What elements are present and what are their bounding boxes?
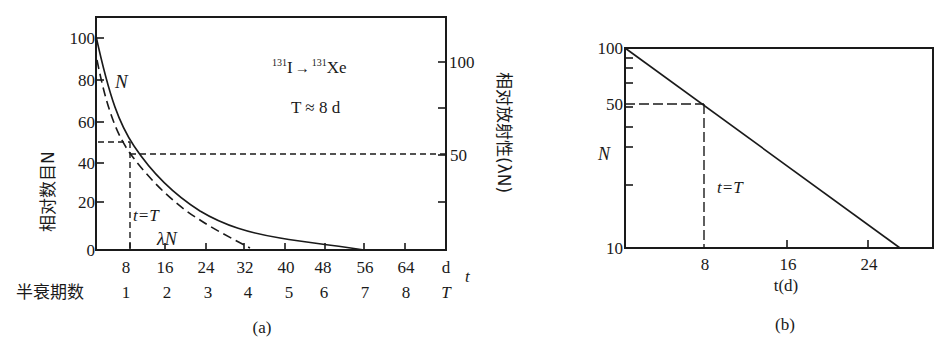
svg-text:40: 40: [78, 154, 95, 173]
svg-text:3: 3: [204, 283, 213, 302]
chart-a-reference-lines: [98, 142, 446, 250]
reaction-annotation: 131I→131Xe: [272, 57, 347, 77]
svg-text:d: d: [442, 258, 451, 277]
curve-N-label: N: [114, 71, 129, 92]
svg-text:56: 56: [357, 258, 374, 277]
chart-b-plot-frame: [625, 48, 933, 248]
chart-a-x-axis-var: t: [465, 267, 471, 286]
chart-b-x-axis-title: t(d): [774, 276, 799, 295]
chart-b-x-tick-labels: 8 16 24: [701, 255, 878, 274]
svg-text:1: 1: [122, 283, 131, 302]
svg-text:10: 10: [606, 239, 623, 258]
chart-b-y-ticks: [625, 58, 633, 185]
svg-text:24: 24: [861, 255, 879, 274]
chart-b-x-ticks: [787, 240, 868, 248]
chart-a-left-tick-labels: 100 80 60 40 20 0: [70, 29, 96, 260]
svg-text:7: 7: [361, 283, 370, 302]
halflife-row-label: 半衰期数: [16, 282, 84, 302]
chart-a-right-axis-title: 相对放射性(λN): [494, 72, 514, 193]
panel-a-label: (a): [253, 318, 272, 337]
svg-text:16: 16: [157, 258, 174, 277]
svg-text:24: 24: [198, 258, 216, 277]
svg-text:20: 20: [78, 193, 95, 212]
t-eq-T-label: t=T: [133, 206, 160, 225]
svg-text:60: 60: [78, 113, 95, 132]
halflife-annotation: T ≈ 8 d: [291, 98, 341, 117]
curve-lambdaN-label: λN: [156, 229, 178, 249]
svg-text:8: 8: [122, 258, 131, 277]
svg-text:100: 100: [449, 53, 475, 72]
chart-a-right-tick-labels: 100 50: [449, 53, 475, 165]
svg-text:8: 8: [701, 255, 710, 274]
chart-a-x-tick-labels: 8 16 24 32 40 48 56 64 d: [122, 258, 451, 277]
svg-text:5: 5: [285, 283, 294, 302]
svg-text:4: 4: [244, 283, 253, 302]
chart-b-decay-line: [625, 48, 900, 248]
chart-b-reference-lines: [625, 104, 704, 248]
halflife-row-ticks: 1 2 3 4 5 6 7 8 T: [122, 283, 453, 302]
svg-text:100: 100: [70, 29, 96, 48]
chart-a-left-axis-title: 相对数目N: [38, 151, 58, 232]
svg-text:50: 50: [450, 146, 467, 165]
svg-text:48: 48: [315, 258, 332, 277]
svg-text:64: 64: [398, 258, 416, 277]
svg-text:8: 8: [402, 283, 411, 302]
chart-b: 100 50 10 N 8 16 24 t(d) t=T (b): [597, 39, 933, 334]
svg-text:50: 50: [606, 95, 623, 114]
svg-text:0: 0: [87, 241, 96, 260]
svg-text:80: 80: [78, 71, 95, 90]
svg-text:T: T: [441, 283, 452, 302]
chart-b-y-axis-title: N: [597, 144, 611, 164]
chart-a: N λN t=T 131I→131Xe T ≈ 8 d 100 80 60 40…: [16, 17, 514, 337]
svg-text:16: 16: [780, 255, 797, 274]
figure: N λN t=T 131I→131Xe T ≈ 8 d 100 80 60 40…: [0, 0, 946, 358]
panel-b-label: (b): [775, 315, 795, 334]
svg-text:6: 6: [320, 283, 329, 302]
chart-b-t-eq-T-label: t=T: [717, 178, 744, 197]
svg-text:2: 2: [163, 283, 172, 302]
chart-a-right-ticks: [438, 62, 446, 202]
svg-text:40: 40: [278, 258, 295, 277]
svg-text:100: 100: [598, 39, 624, 58]
svg-text:32: 32: [237, 258, 254, 277]
